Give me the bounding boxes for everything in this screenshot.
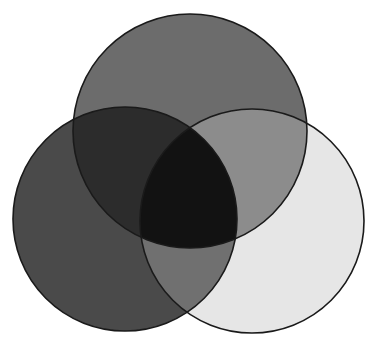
regions: [13, 14, 364, 333]
venn-diagram: [0, 0, 378, 349]
